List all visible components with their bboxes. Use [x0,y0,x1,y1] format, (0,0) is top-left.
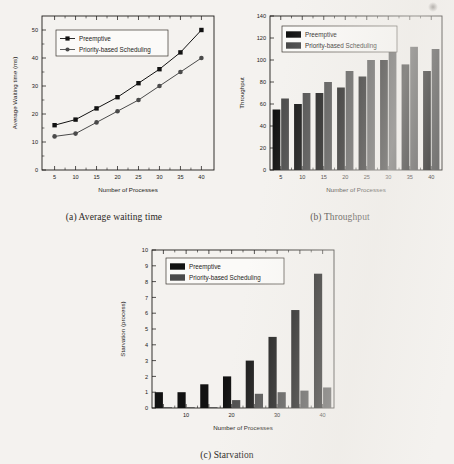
legend-item-priority-label: Priority-based Scheduling [305,42,377,50]
bar-priority [389,44,397,171]
bar-priority [281,99,289,171]
bar-preemptive [273,110,281,171]
bar-preemptive [294,104,302,170]
x-tick-label: 10 [183,412,189,418]
chart-b-plot: 020406080100120140510152025303540Number … [232,4,448,204]
legend-item-preemptive-label: Preemptive [305,31,337,39]
legend-item-priority-marker [65,47,69,51]
data-point [115,95,119,99]
bar-priority [324,82,332,170]
bar-priority [278,392,286,408]
chart-legend: PreemptivePriority-based Scheduling [166,258,284,284]
y-tick-label: 7 [145,295,148,301]
y-tick-label: 0 [263,167,266,173]
y-tick-label: 20 [32,111,38,117]
y-tick-label: 120 [257,35,266,41]
bar-preemptive [268,337,276,408]
y-tick-label: 140 [257,13,266,19]
x-tick-label: 5 [53,174,56,180]
data-point [52,134,57,139]
x-tick-label: 25 [364,174,370,180]
x-tick-label: 25 [135,174,141,180]
y-axis-title: Throughput [238,77,245,109]
x-tick-label: 20 [342,174,348,180]
y-tick-label: 0 [35,167,38,173]
x-axis-title: Number of Processes [98,186,158,193]
bar-priority [323,387,331,408]
y-tick-label: 100 [257,57,266,63]
bar-priority [255,394,263,408]
bar-preemptive [316,93,324,170]
y-tick-label: 3 [145,358,148,364]
y-tick-label: 40 [32,55,38,61]
x-tick-label: 30 [156,174,162,180]
bar-preemptive [177,392,185,408]
figure-b-throughput: 020406080100120140510152025303540Number … [232,4,448,222]
data-point [178,50,182,54]
bar-preemptive [423,71,431,170]
bar-priority [209,407,217,408]
bar-preemptive [380,60,388,170]
figure-b-caption: (b) Throughput [232,212,448,222]
legend-item-priority-swatch [286,42,301,48]
y-tick-label: 80 [260,79,266,85]
y-axis-title: Average Waiting time (ms) [11,57,18,130]
y-tick-label: 30 [32,83,38,89]
legend-item-preemptive-swatch [170,263,185,269]
bar-preemptive [337,88,345,171]
data-point [136,98,141,103]
bar-priority [410,47,418,170]
y-tick-label: 8 [145,279,148,285]
chart-a-plot: 01020304050510152025303540Number of Proc… [6,4,222,204]
bar-preemptive [246,361,254,408]
bar-preemptive [314,274,322,408]
bar-preemptive [402,64,410,170]
y-tick-label: 50 [32,27,38,33]
y-tick-label: 0 [145,405,148,411]
figure-c-caption: (c) Starvation [112,450,342,460]
legend-item-priority-swatch [170,274,185,280]
figure-c-starvation: 01234567891010203040Number of ProcessesS… [112,238,342,460]
x-tick-label: 10 [72,174,78,180]
bar-priority [346,71,354,170]
bar-priority [232,400,240,408]
bar-preemptive [291,310,299,408]
bar-priority [187,407,195,408]
x-tick-label: 40 [428,174,434,180]
legend-item-priority-label: Priority-based Scheduling [79,46,151,54]
legend-item-preemptive-swatch [286,31,301,37]
x-tick-label: 20 [229,412,235,418]
y-tick-label: 6 [145,310,148,316]
data-point [178,70,183,75]
y-tick-label: 9 [145,263,148,269]
y-tick-label: 4 [145,342,148,348]
chart-c-plot: 01234567891010203040Number of ProcessesS… [112,238,342,442]
x-tick-label: 15 [321,174,327,180]
bar-preemptive [223,376,231,408]
legend-item-preemptive-label: Preemptive [79,35,111,43]
figure-page: 01020304050510152025303540Number of Proc… [0,0,454,464]
bar-priority [432,49,440,170]
legend-item-preemptive-label: Preemptive [189,263,221,271]
chart-b-svg: 020406080100120140510152025303540Number … [232,4,448,204]
bar-priority [164,407,172,408]
x-tick-label: 5 [279,174,282,180]
x-axis-title: Number of Processes [326,186,386,193]
chart-a-svg: 01020304050510152025303540Number of Proc… [6,4,222,204]
data-point [199,56,204,61]
data-point [52,123,56,127]
data-point [115,109,120,114]
x-tick-label: 30 [274,412,280,418]
legend-item-priority-label: Priority-based Scheduling [189,274,261,282]
y-tick-label: 60 [260,101,266,107]
x-tick-label: 20 [114,174,120,180]
bar-preemptive [155,392,163,408]
data-point [157,67,161,71]
data-point [94,120,99,125]
chart-legend: PreemptivePriority-based Scheduling [56,30,168,56]
x-tick-label: 10 [299,174,305,180]
x-tick-label: 30 [385,174,391,180]
data-point [199,28,203,32]
y-tick-label: 2 [145,374,148,380]
chart-legend: PreemptivePriority-based Scheduling [282,26,397,52]
